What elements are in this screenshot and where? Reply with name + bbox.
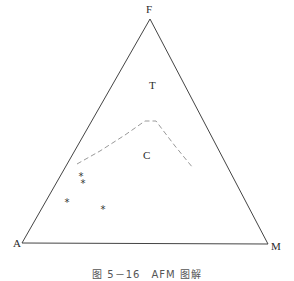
field-boundary-dashed-line xyxy=(77,121,193,168)
field-label-t: T xyxy=(149,80,156,91)
vertex-label-m: M xyxy=(271,241,281,252)
field-label-c: C xyxy=(143,150,150,161)
ternary-triangle xyxy=(22,19,268,244)
data-point: * xyxy=(65,198,70,208)
vertex-label-a: A xyxy=(13,238,21,249)
vertex-label-f: F xyxy=(146,4,152,15)
data-point: * xyxy=(81,179,86,189)
figure-caption: 图 5－16 AFM 图解 xyxy=(0,266,294,281)
data-point: * xyxy=(101,205,106,215)
